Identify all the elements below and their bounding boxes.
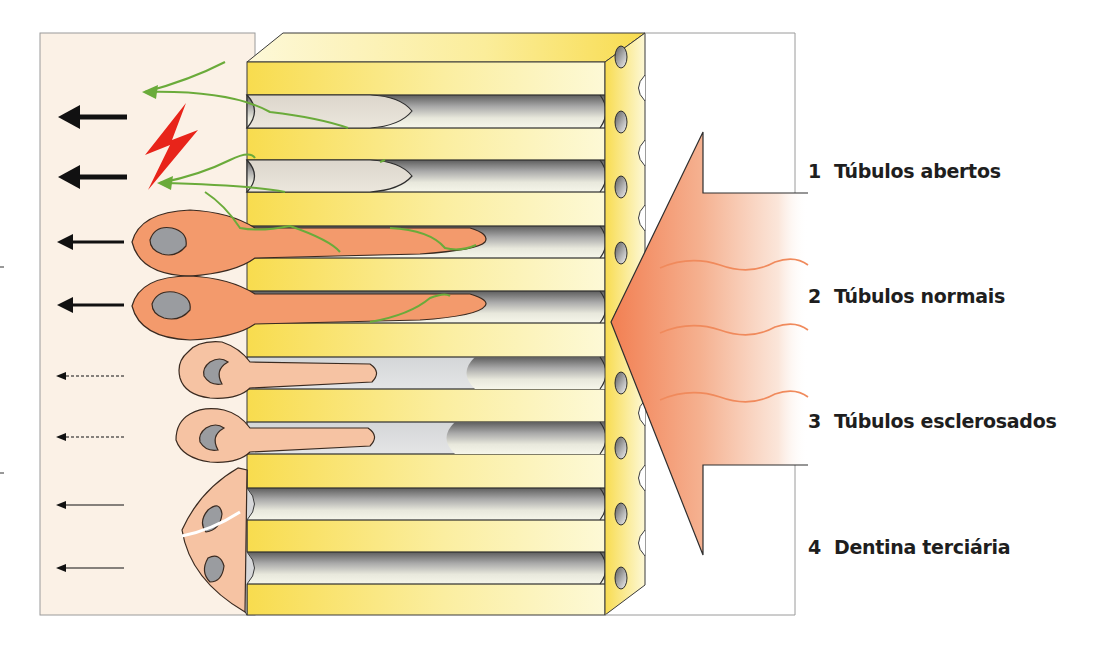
label-tertiary-dentin: 4Dentina terciária — [808, 536, 1010, 558]
label-number: 1 — [808, 160, 834, 182]
label-text: Túbulos normais — [834, 285, 1005, 307]
margin-ticks — [0, 267, 4, 473]
dentin-top-face — [247, 33, 645, 62]
dentin-front-face — [247, 62, 605, 615]
label-number: 3 — [808, 410, 834, 432]
label-number: 2 — [808, 285, 834, 307]
label-text: Túbulos esclerosados — [834, 410, 1056, 432]
label-sclerosed-tubules: 3Túbulos esclerosados — [808, 410, 1056, 432]
label-text: Túbulos abertos — [834, 160, 1001, 182]
label-text: Dentina terciária — [834, 536, 1010, 558]
label-open-tubules: 1Túbulos abertos — [808, 160, 1001, 182]
label-normal-tubules: 2Túbulos normais — [808, 285, 1005, 307]
label-number: 4 — [808, 536, 834, 558]
